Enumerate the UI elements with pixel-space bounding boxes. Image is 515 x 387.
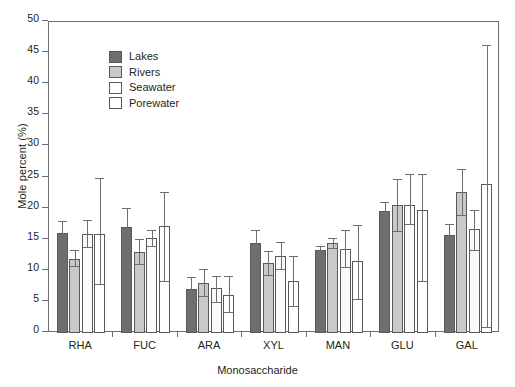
error-cap-upper — [341, 230, 350, 231]
error-cap-lower — [212, 302, 221, 303]
error-bar-fuc-rivers — [139, 239, 140, 264]
legend-label-rivers: Rivers — [129, 67, 160, 78]
error-cap-upper — [187, 277, 196, 278]
bar-rha-rivers — [69, 259, 80, 333]
x-tick-mark — [112, 332, 113, 337]
x-tick-label-glu: GLU — [372, 340, 432, 351]
error-bar-rha-porewater — [100, 178, 101, 284]
bar-rha-seawater — [82, 234, 93, 333]
error-bar-glu-lakes — [385, 202, 386, 222]
x-axis-title: Monosaccharide — [0, 364, 515, 376]
legend-label-porewater: Porewater — [129, 98, 179, 109]
error-cap-upper — [199, 269, 208, 270]
x-tick-mark — [306, 332, 307, 337]
error-cap-upper — [251, 230, 260, 231]
error-bar-fuc-lakes — [127, 208, 128, 245]
error-cap-lower — [83, 247, 92, 248]
error-cap-upper — [70, 250, 79, 251]
error-bar-glu-porewater — [422, 174, 423, 281]
x-tick-label-rha: RHA — [50, 340, 110, 351]
error-bar-man-seawater — [345, 230, 346, 267]
error-bar-gal-lakes — [449, 224, 450, 249]
error-cap-lower — [58, 246, 67, 247]
error-bar-gal-porewater — [487, 45, 488, 327]
error-cap-lower — [187, 300, 196, 301]
error-cap-lower — [380, 222, 389, 223]
error-cap-lower — [95, 284, 104, 285]
bar-chart-figure: Mole percent (%) Monosaccharide 05101520… — [0, 0, 515, 387]
error-cap-upper — [147, 230, 156, 231]
legend-swatch-seawater — [109, 82, 122, 94]
legend-item-porewater: Porewater — [109, 96, 229, 112]
error-cap-upper — [95, 178, 104, 179]
error-cap-lower — [199, 296, 208, 297]
bar-man-rivers — [327, 243, 338, 333]
error-cap-upper — [135, 239, 144, 240]
error-bar-xyl-porewater — [293, 256, 294, 306]
error-cap-upper — [328, 238, 337, 239]
x-tick-mark — [435, 332, 436, 337]
legend-item-rivers: Rivers — [109, 65, 229, 81]
error-cap-upper — [470, 210, 479, 211]
legend-label-seawater: Seawater — [129, 82, 175, 93]
error-cap-lower — [289, 306, 298, 307]
error-cap-lower — [122, 245, 131, 246]
error-bar-ara-lakes — [191, 277, 192, 300]
chart-legend: Lakes Rivers Seawater Porewater — [109, 49, 229, 111]
y-tick-label: 35 — [27, 106, 39, 117]
error-cap-upper — [353, 225, 362, 226]
error-cap-upper — [264, 251, 273, 252]
x-tick-mark — [370, 332, 371, 337]
error-cap-lower — [418, 281, 427, 282]
x-tick-label-ara: ARA — [179, 340, 239, 351]
plot-area: Lakes Rivers Seawater Porewater — [48, 21, 499, 332]
error-bar-fuc-porewater — [164, 192, 165, 281]
error-bar-ara-porewater — [229, 276, 230, 313]
error-cap-lower — [470, 250, 479, 251]
error-bar-gal-rivers — [462, 169, 463, 216]
error-cap-upper — [276, 242, 285, 243]
error-cap-lower — [224, 312, 233, 313]
y-tick-label: 45 — [27, 44, 39, 55]
x-tick-mark — [241, 332, 242, 337]
error-bar-xyl-rivers — [268, 251, 269, 275]
error-cap-lower — [457, 215, 466, 216]
error-bar-xyl-seawater — [281, 242, 282, 269]
legend-swatch-rivers — [109, 66, 122, 78]
bar-xyl-lakes — [250, 243, 261, 333]
error-cap-upper — [380, 202, 389, 203]
error-cap-upper — [58, 221, 67, 222]
y-tick-label: 10 — [27, 262, 39, 273]
bar-man-lakes — [315, 250, 326, 333]
bar-glu-lakes — [379, 211, 390, 333]
y-tick-label: 0 — [33, 324, 39, 335]
error-cap-upper — [224, 276, 233, 277]
bar-fuc-seawater — [146, 238, 157, 333]
y-tick-label: 25 — [27, 169, 39, 180]
error-cap-lower — [264, 275, 273, 276]
legend-swatch-lakes — [109, 51, 122, 63]
error-bar-rha-seawater — [87, 220, 88, 246]
error-bar-ara-seawater — [216, 276, 217, 302]
error-cap-upper — [122, 208, 131, 209]
error-cap-lower — [147, 246, 156, 247]
bar-rha-lakes — [57, 233, 68, 333]
error-bar-man-porewater — [358, 225, 359, 298]
error-cap-upper — [482, 45, 491, 46]
error-cap-lower — [160, 281, 169, 282]
legend-item-seawater: Seawater — [109, 80, 229, 96]
error-cap-lower — [135, 264, 144, 265]
error-bar-glu-rivers — [397, 179, 398, 231]
y-tick-label: 50 — [27, 13, 39, 24]
error-bar-gal-seawater — [474, 210, 475, 250]
error-cap-upper — [393, 179, 402, 180]
error-cap-upper — [316, 246, 325, 247]
error-bar-man-rivers — [333, 238, 334, 248]
legend-item-lakes: Lakes — [109, 49, 229, 65]
error-bar-xyl-lakes — [256, 230, 257, 255]
error-bar-glu-seawater — [410, 174, 411, 224]
error-cap-upper — [418, 174, 427, 175]
x-tick-label-gal: GAL — [437, 340, 497, 351]
error-cap-lower — [328, 248, 337, 249]
error-bar-man-lakes — [320, 246, 321, 253]
